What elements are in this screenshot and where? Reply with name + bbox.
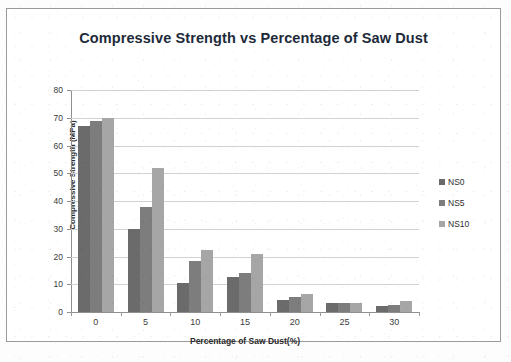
legend-swatch-icon	[439, 200, 445, 206]
y-tick-label: 10	[41, 279, 63, 289]
legend-item: NS0	[439, 177, 469, 187]
y-tick-label: 30	[41, 224, 63, 234]
x-tick-label: 25	[324, 317, 364, 327]
bar	[201, 250, 213, 312]
bar	[227, 277, 239, 312]
y-tick-label: 50	[41, 168, 63, 178]
bar	[140, 207, 152, 312]
bar	[400, 301, 412, 312]
x-axis-line	[71, 312, 419, 313]
y-tick-label: 60	[41, 141, 63, 151]
x-axis-title: Percentage of Saw Dust(%)	[71, 336, 419, 346]
bar	[289, 297, 301, 312]
y-tick-label: 40	[41, 196, 63, 206]
x-tick-label: 5	[126, 317, 166, 327]
bar	[177, 283, 189, 312]
x-tick-label: 15	[225, 317, 265, 327]
legend-label: NS0	[448, 177, 465, 187]
bar	[90, 121, 102, 312]
bar	[338, 303, 350, 312]
x-tick-label: 10	[175, 317, 215, 327]
x-tick-mark	[170, 312, 171, 316]
x-tick-mark	[270, 312, 271, 316]
bar	[388, 305, 400, 312]
legend-label: NS5	[448, 198, 465, 208]
x-tick-mark	[419, 312, 420, 316]
x-tick-mark	[220, 312, 221, 316]
legend-label: NS10	[448, 219, 469, 229]
bar	[102, 118, 114, 312]
bar-group	[270, 90, 320, 312]
legend-item: NS5	[439, 198, 469, 208]
bar	[152, 168, 164, 312]
y-tick-label: 0	[41, 307, 63, 317]
y-tick-label: 70	[41, 113, 63, 123]
legend-item: NS10	[439, 219, 469, 229]
bar	[251, 254, 263, 312]
y-tick-label: 80	[41, 85, 63, 95]
chart-legend: NS0NS5NS10	[439, 177, 469, 229]
bar-group	[369, 90, 419, 312]
y-tick-label: 20	[41, 252, 63, 262]
bar-group	[320, 90, 370, 312]
bar	[301, 294, 313, 312]
x-tick-label: 20	[275, 317, 315, 327]
x-tick-mark	[369, 312, 370, 316]
scanned-page: Compressive Strength vs Percentage of Sa…	[0, 0, 511, 362]
chart-frame: Compressive Strength vs Percentage of Sa…	[6, 8, 501, 342]
x-tick-mark	[320, 312, 321, 316]
chart-title: Compressive Strength vs Percentage of Sa…	[7, 30, 500, 46]
plot-area	[71, 90, 419, 313]
legend-swatch-icon	[439, 179, 445, 185]
bar-group	[220, 90, 270, 312]
bar	[350, 303, 362, 312]
bar-group	[170, 90, 220, 312]
legend-swatch-icon	[439, 221, 445, 227]
bar	[239, 273, 251, 312]
bar	[128, 229, 140, 312]
bar	[376, 306, 388, 312]
bar	[78, 126, 90, 312]
bar	[189, 261, 201, 312]
x-tick-mark	[121, 312, 122, 316]
bar-group	[71, 90, 121, 312]
bar	[277, 300, 289, 312]
x-tick-label: 30	[374, 317, 414, 327]
x-tick-mark	[71, 312, 72, 316]
bar-group	[121, 90, 171, 312]
bar	[326, 303, 338, 312]
x-tick-label: 0	[76, 317, 116, 327]
